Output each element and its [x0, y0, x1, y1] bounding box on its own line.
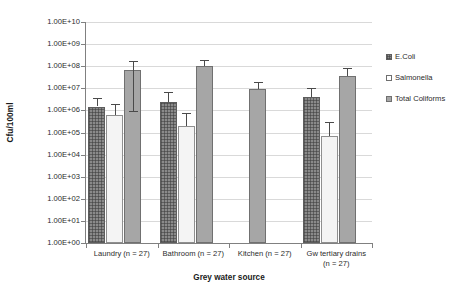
bar-ecoli — [88, 107, 105, 243]
x-axis-tick-mark — [301, 244, 302, 248]
bacteria-bar-chart: 1.00E+001.00E+011.00E+021.00E+031.00E+04… — [0, 0, 470, 294]
legend-swatch-icon — [386, 96, 392, 102]
y-axis-tick-label: 1.00E+00 — [8, 239, 80, 247]
x-axis-category-label: Gw tertiary drains (n = 27) — [291, 249, 383, 268]
gridline — [86, 44, 372, 45]
gridline — [86, 22, 372, 23]
error-bar-cap-upper — [254, 82, 263, 83]
y-axis-tick-mark — [81, 243, 85, 244]
y-axis-tick-label: 1.00E+03 — [8, 173, 80, 181]
y-axis-tick-label: 1.00E+07 — [8, 84, 80, 92]
bar-salmonella — [106, 115, 123, 243]
error-bar-cap-upper — [111, 104, 120, 105]
error-bar-stem — [329, 122, 330, 136]
y-axis-tick-label: 1.00E+09 — [8, 40, 80, 48]
plot-area — [86, 22, 372, 243]
y-axis-tick-label: 1.00E+01 — [8, 217, 80, 225]
legend-item-salmonella[interactable]: Salmonella — [386, 73, 470, 82]
error-bar-cap-upper — [182, 113, 191, 114]
legend-swatch-icon — [386, 75, 392, 81]
bar-coliforms — [339, 76, 356, 243]
y-axis-tick-mark — [81, 44, 85, 45]
y-axis-tick-label: 1.00E+05 — [8, 129, 80, 137]
bar-salmonella — [321, 136, 338, 243]
error-bar-cap-upper — [200, 60, 209, 61]
bar-coliforms — [249, 89, 266, 243]
error-bar-stem — [97, 98, 98, 107]
bar-salmonella — [178, 126, 195, 243]
y-axis-tick-mark — [81, 177, 85, 178]
error-bar-cap-upper — [325, 122, 334, 123]
y-axis-tick-mark — [81, 133, 85, 134]
error-bar-cap-upper — [307, 88, 316, 89]
x-axis-tick-mark — [158, 244, 159, 248]
y-axis-tick-mark — [81, 88, 85, 89]
error-bar-stem — [311, 88, 312, 97]
y-axis-tick-label: 1.00E+04 — [8, 151, 80, 159]
y-axis-tick-label: 1.00E+08 — [8, 62, 80, 70]
bar-ecoli — [303, 97, 320, 243]
y-axis-tick-label: 1.00E+02 — [8, 195, 80, 203]
legend-swatch-icon — [386, 54, 392, 60]
y-axis-tick-label: 1.00E+06 — [8, 106, 80, 114]
legend-item-ecoli[interactable]: E.Coli — [386, 52, 470, 61]
y-axis-tick-mark — [81, 110, 85, 111]
bar-ecoli — [160, 102, 177, 243]
error-bar-stem — [133, 61, 134, 112]
bar-coliforms — [196, 66, 213, 243]
y-axis-tick-mark — [81, 66, 85, 67]
error-bar-cap-upper — [343, 68, 352, 69]
error-bar-stem — [258, 82, 259, 90]
legend-item-label: Salmonella — [395, 73, 433, 82]
chart-legend: E.ColiSalmonellaTotal Coliforms — [386, 52, 470, 115]
y-axis-tick-mark — [81, 221, 85, 222]
x-axis-tick-mark — [86, 244, 87, 248]
y-axis-title: Cfu/100ml — [6, 87, 15, 159]
x-axis-tick-mark — [229, 244, 230, 248]
error-bar-stem — [186, 113, 187, 126]
error-bar-stem — [168, 92, 169, 102]
error-bar-stem — [115, 104, 116, 116]
y-axis-tick-mark — [81, 22, 85, 23]
y-axis-tick-mark — [81, 199, 85, 200]
x-axis-title: Grey water source — [86, 273, 372, 282]
legend-item-label: Total Coliforms — [395, 94, 445, 103]
y-axis-tick-mark — [81, 155, 85, 156]
error-bar-cap-upper — [164, 92, 173, 93]
x-axis-tick-mark — [372, 244, 373, 248]
error-bar-cap-upper — [93, 98, 102, 99]
error-bar-stem — [347, 68, 348, 76]
error-bar-cap-lower — [129, 111, 138, 112]
y-axis-tick-labels: 1.00E+001.00E+011.00E+021.00E+031.00E+04… — [8, 0, 80, 294]
legend-item-label: E.Coli — [395, 52, 415, 61]
error-bar-cap-upper — [129, 61, 138, 62]
gridline — [86, 66, 372, 67]
legend-item-coliforms[interactable]: Total Coliforms — [386, 94, 470, 103]
y-axis-tick-label: 1.00E+10 — [8, 18, 80, 26]
